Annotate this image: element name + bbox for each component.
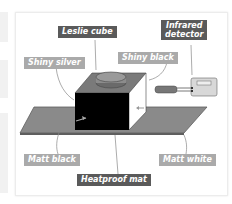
cube-front-face-matt-black — [75, 93, 129, 130]
label-heatproof-mat: Heatproof mat — [77, 174, 151, 186]
label-matt-black: Matt black — [24, 154, 80, 166]
label-infrared-line1: Infrared — [165, 21, 203, 30]
detector-body — [191, 78, 217, 96]
label-infrared-detector: Infrared detector — [161, 20, 207, 40]
label-shiny-silver: Shiny silver — [24, 57, 85, 69]
label-infrared-line2: detector — [165, 30, 203, 39]
detector-probe — [155, 86, 177, 93]
label-shiny-black: Shiny black — [118, 52, 178, 64]
label-leslie-cube: Leslie cube — [58, 26, 117, 38]
label-matt-white: Matt white — [159, 154, 216, 166]
